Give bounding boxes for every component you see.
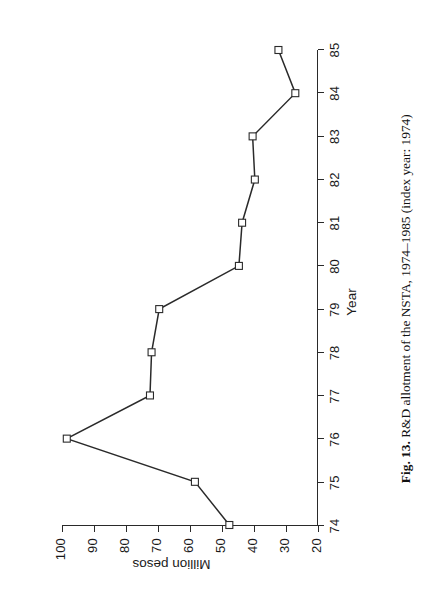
y-axis-tick-label: 20 [309, 538, 324, 572]
data-point-marker [156, 305, 163, 312]
x-axis-tick [318, 351, 324, 352]
series-line [67, 50, 296, 525]
x-axis-tick [318, 395, 324, 396]
line-series-svg [62, 50, 317, 525]
x-axis-tick-label: 78 [327, 332, 342, 372]
x-axis-tick [318, 49, 324, 50]
y-axis-tick [190, 526, 191, 532]
x-axis-tick [318, 481, 324, 482]
x-axis-tick-label: 74 [327, 506, 342, 546]
x-axis-tick [318, 92, 324, 93]
data-point-marker [251, 176, 258, 183]
y-axis-tick [222, 526, 223, 532]
data-point-marker [249, 132, 256, 139]
y-axis-tick [94, 526, 95, 532]
x-axis-tick-label: 79 [327, 289, 342, 329]
x-axis-tick-label: 83 [327, 116, 342, 156]
x-axis-tick [318, 308, 324, 309]
y-axis-tick-label: 100 [53, 538, 68, 572]
data-point-marker [191, 478, 198, 485]
y-axis-tick [286, 526, 287, 532]
data-point-marker [148, 348, 155, 355]
x-axis-tick [318, 222, 324, 223]
data-point-marker [275, 46, 282, 53]
x-axis-tick [318, 438, 324, 439]
y-axis-tick [158, 526, 159, 532]
figure-caption: Fig. 13. R&D allotment of the NSTA, 1974… [397, 63, 414, 533]
x-axis-title: Year [344, 22, 359, 582]
data-point-marker [63, 435, 70, 442]
x-axis-tick [318, 178, 324, 179]
data-point-marker [292, 89, 299, 96]
figure-caption-text: R&D allotment of the NSTA, 1974–1985 (in… [398, 114, 413, 438]
y-axis-tick-label: 30 [277, 538, 292, 572]
x-axis-tick-label: 75 [327, 462, 342, 502]
x-axis-tick [318, 135, 324, 136]
x-axis-tick-label: 76 [327, 419, 342, 459]
x-axis-tick-label: 81 [327, 203, 342, 243]
data-point-marker [146, 391, 153, 398]
x-axis-tick-label: 82 [327, 159, 342, 199]
data-point-marker [239, 219, 246, 226]
plot-wrapper: 7475767778798081828384852030405060708090… [44, 22, 396, 582]
rotated-figure-container: 7475767778798081828384852030405060708090… [44, 22, 396, 582]
y-axis-title: Million pesos [92, 556, 252, 571]
y-axis-tick [254, 526, 255, 532]
figure-caption-label: Fig. 13. [398, 441, 413, 483]
data-point-marker [235, 262, 242, 269]
x-axis-tick-label: 84 [327, 73, 342, 113]
data-point-marker [226, 521, 233, 528]
plot-area [62, 50, 318, 526]
y-axis-tick [62, 526, 63, 532]
y-axis-tick [126, 526, 127, 532]
figure-page: 7475767778798081828384852030405060708090… [0, 0, 440, 603]
x-axis-tick-label: 85 [327, 30, 342, 70]
x-axis-tick [318, 265, 324, 266]
y-axis-tick [318, 526, 319, 532]
x-axis-tick-label: 77 [327, 376, 342, 416]
x-axis-tick-label: 80 [327, 246, 342, 286]
